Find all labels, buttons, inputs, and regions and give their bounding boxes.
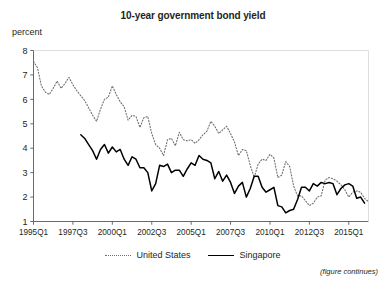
x-tick-label: 2010Q1 [255,228,285,237]
x-tick-label: 1997Q3 [58,228,88,237]
y-tick-label: 2 [22,192,27,202]
figure-continues-note: (figure continues) [320,267,378,276]
legend-label-united-states: United States [136,250,190,260]
legend-label-singapore: Singapore [239,250,280,260]
series-line-singapore [81,135,365,213]
legend-swatch-dotted-icon [105,255,131,256]
legend-swatch-solid-icon [208,255,234,256]
y-tick-label: 4 [22,143,27,153]
y-tick-label: 8 [22,46,27,56]
y-tick-label: 6 [22,95,27,105]
x-tick-label: 2007Q3 [216,228,246,237]
series-line-united-states [34,61,369,205]
axis-layer [30,51,368,225]
legend-item-united-states: United States [105,250,190,260]
x-tick-label: 2000Q1 [98,228,128,237]
x-tick-label: 2015Q1 [334,228,364,237]
x-tick-label: 1995Q1 [19,228,49,237]
legend-item-singapore: Singapore [208,250,280,260]
y-tick-label: 7 [22,70,27,80]
chart-svg: 123456781995Q11997Q32000Q12002Q32005Q120… [0,0,386,283]
y-tick-label: 1 [22,217,27,227]
series-layer [34,61,369,212]
y-tick-label: 3 [22,168,27,178]
figure-container: 10-year government bond yield percent 12… [0,0,386,283]
x-tick-label: 2002Q3 [137,228,167,237]
y-tick-label: 5 [22,119,27,129]
chart-legend: United States Singapore [0,250,386,260]
plot-area: 123456781995Q11997Q32000Q12002Q32005Q120… [0,0,386,283]
x-tick-label: 2005Q1 [177,228,207,237]
tick-label-layer: 123456781995Q11997Q32000Q12002Q32005Q120… [19,46,364,237]
x-tick-label: 2012Q3 [295,228,325,237]
